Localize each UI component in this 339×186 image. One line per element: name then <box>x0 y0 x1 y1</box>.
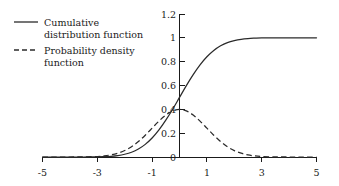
x-axis-tick-labels: -5 -3 -1 1 3 5 <box>38 167 320 178</box>
x-tick-label: 1 <box>204 167 210 178</box>
x-tick-label: -1 <box>147 167 156 178</box>
y-tick-label: 0.6 <box>161 80 176 91</box>
y-axis-ticks <box>180 14 186 157</box>
x-tick-label: 5 <box>313 167 319 178</box>
x-axis-ticks <box>43 157 317 162</box>
y-tick-label: 1 <box>170 32 176 43</box>
y-tick-label: 1.2 <box>161 9 176 20</box>
chart-legend: Cumulative distribution function Probabi… <box>14 17 143 68</box>
legend-item-cdf-line1: Cumulative <box>44 17 99 28</box>
legend-item-cdf-line2: distribution function <box>44 29 143 40</box>
normal-distribution-chart: -5 -3 -1 1 3 5 0 0.2 0.4 0.6 0.8 1 1.2 C… <box>0 0 339 186</box>
legend-item-pdf-line2: function <box>44 57 84 68</box>
y-axis-tick-labels: 0 0.2 0.4 0.6 0.8 1 1.2 <box>161 9 176 163</box>
x-tick-label: -3 <box>93 167 102 178</box>
y-tick-label: 0.2 <box>161 128 176 139</box>
x-tick-label: -5 <box>38 167 47 178</box>
chart-canvas: -5 -3 -1 1 3 5 0 0.2 0.4 0.6 0.8 1 1.2 C… <box>0 0 339 186</box>
y-tick-label: 0 <box>170 152 176 163</box>
x-tick-label: 3 <box>259 167 265 178</box>
legend-item-pdf-line1: Probability density <box>44 45 135 56</box>
y-tick-label: 0.8 <box>161 56 176 67</box>
